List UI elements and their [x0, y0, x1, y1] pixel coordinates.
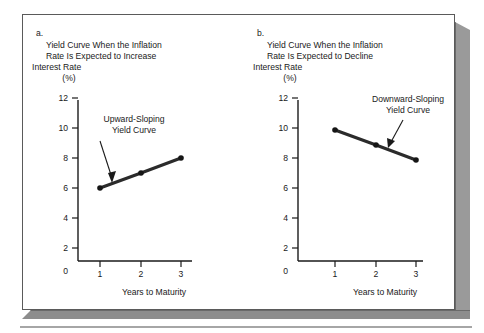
panel-a-data-point-2 [138, 170, 144, 176]
panel-b: b.Yield Curve When the Inflation Rate Is… [243, 14, 459, 310]
panel-b-ytick-label-12: 12 [272, 93, 288, 103]
panel-b-origin-label: 0 [272, 266, 288, 276]
panel-a-ytick-label-4: 4 [52, 213, 68, 223]
panel-b-ytick-label-2: 2 [272, 243, 288, 253]
panel-a-ytick-label-6: 6 [52, 183, 68, 193]
frame-bevel-bottom [22, 310, 470, 319]
panel-b-ytick-label-10: 10 [272, 123, 288, 133]
panel-b-annotation-arrow-line [391, 120, 403, 142]
panel-b-data-point-3 [413, 157, 419, 163]
panel-a-data-point-1 [97, 185, 103, 191]
panel-b-ytick-label-8: 8 [272, 153, 288, 163]
panel-b-ytick-label-6: 6 [272, 183, 288, 193]
panel-a-data-point-3 [178, 155, 184, 161]
panel-a-ytick-label-10: 10 [52, 123, 68, 133]
panel-b-curve-annotation: Downward-Sloping Yield Curve [362, 94, 454, 116]
bottom-separator-rule [20, 326, 472, 328]
panel-a-xtick-label-3: 3 [173, 269, 189, 279]
panel-b-x-axis-title: Years to Maturity [353, 287, 417, 297]
panel-a-xtick-label-1: 1 [92, 269, 108, 279]
panel-a-xtick-label-2: 2 [133, 269, 149, 279]
panel-a-origin-label: 0 [52, 266, 68, 276]
panel-a-ytick-label-2: 2 [52, 243, 68, 253]
panel-a-curve-annotation: Upward-Sloping Yield Curve [88, 114, 180, 136]
panel-b-xtick-label-1: 1 [327, 269, 343, 279]
panel-b-data-point-2 [373, 142, 379, 148]
panel-a-annotation-arrow-line [100, 141, 112, 178]
panel-b-annotation-arrow-head [387, 138, 395, 148]
panel-a-x-axis-title: Years to Maturity [122, 287, 186, 297]
panel-b-ytick-label-4: 4 [272, 213, 288, 223]
panel-b-data-point-1 [332, 127, 338, 133]
panel-a-ytick-label-8: 8 [52, 153, 68, 163]
panel-b-xtick-label-2: 2 [368, 269, 384, 279]
panel-a-ytick-label-12: 12 [52, 93, 68, 103]
panel-a: a.Yield Curve When the Inflation Rate Is… [22, 14, 238, 310]
panel-b-xtick-label-3: 3 [408, 269, 424, 279]
